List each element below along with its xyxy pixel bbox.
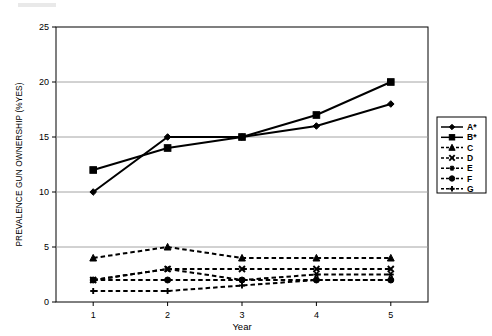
legend-box [437, 117, 486, 193]
legend-label: C [467, 143, 473, 153]
data-point-circle [90, 277, 96, 283]
x-tick-label: 3 [239, 310, 244, 320]
legend-label: A* [467, 122, 477, 132]
y-tick-label: 15 [39, 132, 49, 142]
x-axis-tick-marks [93, 302, 391, 306]
y-tick-label: 0 [44, 297, 49, 307]
legend-label: G [467, 184, 474, 194]
data-point-square [313, 112, 320, 119]
chart-figure: 0510152025 12345 PREVALENCE GUN OWNERSHI… [0, 0, 492, 336]
y-tick-label: 10 [39, 187, 49, 197]
x-tick-label: 1 [91, 310, 96, 320]
y-axis-tick-marks [52, 27, 56, 302]
scan-artifact [18, 3, 56, 7]
data-point-square [388, 79, 395, 86]
y-axis-title: PREVALENCE GUN OWNERSHIP (%YES) [14, 82, 24, 246]
x-tick-label: 5 [388, 310, 393, 320]
data-point-circle [165, 277, 171, 283]
legend-label: D [467, 153, 473, 163]
data-point-square [90, 167, 97, 174]
x-axis-tick-labels: 12345 [91, 310, 394, 320]
data-point-circle [239, 277, 245, 283]
chart-canvas: 0510152025 12345 PREVALENCE GUN OWNERSHI… [0, 0, 492, 336]
x-tick-label: 2 [165, 310, 170, 320]
y-tick-label: 5 [44, 242, 49, 252]
legend-label: F [467, 174, 472, 184]
legend-label: E [467, 163, 473, 173]
x-axis-title: Year [232, 321, 251, 332]
y-tick-label: 25 [39, 22, 49, 32]
data-point-square [449, 135, 454, 140]
data-point-square [164, 145, 171, 152]
y-axis-tick-labels: 0510152025 [39, 22, 49, 307]
x-tick-label: 4 [314, 310, 319, 320]
y-tick-label: 20 [39, 77, 49, 87]
legend-label: B* [467, 132, 477, 142]
line-chart-svg: 0510152025 12345 PREVALENCE GUN OWNERSHI… [0, 0, 492, 336]
data-point-square [239, 134, 246, 141]
data-point-circle [449, 176, 454, 181]
